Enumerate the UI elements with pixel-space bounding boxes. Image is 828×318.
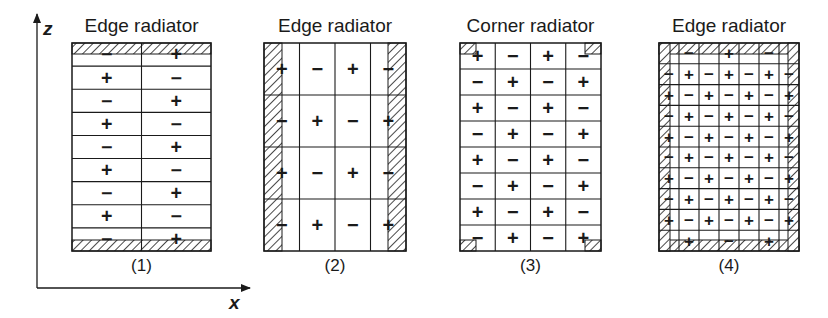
plus-sign: + — [101, 113, 112, 135]
panel-title: Edge radiator — [672, 15, 787, 36]
plus-sign: + — [171, 228, 182, 250]
plus-sign: + — [507, 227, 519, 249]
minus-sign: − — [664, 190, 674, 209]
plus-sign: + — [704, 169, 714, 188]
minus-sign: − — [382, 162, 394, 184]
plus-sign: + — [472, 201, 484, 223]
minus-sign: − — [542, 71, 554, 93]
minus-sign: − — [664, 65, 674, 84]
panel-title: Corner radiator — [467, 15, 595, 36]
plus-sign: + — [784, 169, 794, 188]
plus-sign: + — [276, 162, 288, 184]
plus-sign: + — [507, 175, 519, 197]
minus-sign: − — [744, 65, 754, 84]
panel-caption: (1) — [131, 256, 152, 275]
minus-sign: − — [704, 65, 714, 84]
plus-sign: + — [764, 107, 774, 126]
minus-sign: − — [472, 71, 484, 93]
minus-sign: − — [382, 58, 394, 80]
plus-sign: + — [578, 227, 590, 249]
plus-sign: + — [764, 148, 774, 167]
plus-sign: + — [101, 67, 112, 89]
plus-sign: + — [276, 58, 288, 80]
minus-sign: − — [704, 148, 714, 167]
minus-sign: − — [684, 211, 694, 230]
plus-sign: + — [664, 211, 674, 230]
minus-sign: − — [684, 86, 694, 105]
plus-sign: + — [764, 232, 774, 251]
plus-sign: + — [764, 65, 774, 84]
minus-sign: − — [171, 113, 182, 135]
minus-sign: − — [684, 128, 694, 147]
plus-sign: + — [578, 123, 590, 145]
panels: Edge radiator−++−−++−−++−−++−−+(1)Edge r… — [72, 15, 799, 275]
minus-sign: − — [171, 67, 182, 89]
plus-sign: + — [472, 97, 484, 119]
panel-1: Edge radiator−++−−++−−++−−++−−+(1) — [72, 15, 211, 275]
plus-sign: + — [724, 44, 734, 63]
minus-sign: − — [347, 214, 359, 236]
plus-sign: + — [578, 71, 590, 93]
panel-title: Edge radiator — [84, 15, 199, 36]
minus-sign: − — [171, 205, 182, 227]
plus-sign: + — [744, 211, 754, 230]
plus-sign: + — [704, 211, 714, 230]
minus-sign: − — [311, 162, 323, 184]
minus-sign: − — [311, 58, 323, 80]
minus-sign: − — [507, 201, 519, 223]
plus-sign: + — [664, 128, 674, 147]
panel-4: Edge radiator−+−−+−+−+−+−+−+−+−+−+−+−+−+… — [659, 15, 799, 275]
plus-sign: + — [684, 65, 694, 84]
plus-sign: + — [472, 45, 484, 67]
plus-sign: + — [382, 214, 394, 236]
minus-sign: − — [784, 107, 794, 126]
minus-sign: − — [101, 228, 112, 250]
plus-sign: + — [171, 182, 182, 204]
minus-sign: − — [578, 149, 590, 171]
plus-sign: + — [542, 149, 554, 171]
plus-sign: + — [704, 128, 714, 147]
minus-sign: − — [101, 182, 112, 204]
minus-sign: − — [724, 86, 734, 105]
minus-sign: − — [764, 86, 774, 105]
plus-sign: + — [578, 175, 590, 197]
minus-sign: − — [784, 190, 794, 209]
plus-sign: + — [764, 190, 774, 209]
minus-sign: − — [684, 169, 694, 188]
plus-sign: + — [101, 159, 112, 181]
panel-2: Edge radiator+−+−−+−++−+−−+−+(2) — [264, 15, 406, 275]
minus-sign: − — [347, 110, 359, 132]
plus-sign: + — [171, 90, 182, 112]
plus-sign: + — [101, 205, 112, 227]
plus-sign: + — [507, 71, 519, 93]
plus-sign: + — [704, 86, 714, 105]
panel-caption: (2) — [325, 256, 346, 275]
minus-sign: − — [472, 175, 484, 197]
plus-sign: + — [744, 169, 754, 188]
plus-sign: + — [664, 86, 674, 105]
plus-sign: + — [684, 232, 694, 251]
minus-sign: − — [784, 148, 794, 167]
plus-sign: + — [542, 97, 554, 119]
minus-sign: − — [764, 128, 774, 147]
minus-sign: − — [276, 110, 288, 132]
plus-sign: + — [784, 86, 794, 105]
plus-sign: + — [784, 128, 794, 147]
minus-sign: − — [101, 90, 112, 112]
plus-sign: + — [684, 190, 694, 209]
minus-sign: − — [101, 136, 112, 158]
minus-sign: − — [578, 201, 590, 223]
minus-sign: − — [744, 190, 754, 209]
minus-sign: − — [542, 175, 554, 197]
plus-sign: + — [347, 58, 359, 80]
plus-sign: + — [664, 169, 674, 188]
panel-caption: (3) — [520, 256, 541, 275]
minus-sign: − — [664, 107, 674, 126]
x-axis-label: x — [228, 292, 241, 313]
minus-sign: − — [507, 45, 519, 67]
z-axis-label: z — [42, 18, 53, 39]
minus-sign: − — [542, 123, 554, 145]
plus-sign: + — [684, 148, 694, 167]
minus-sign: − — [507, 149, 519, 171]
plus-sign: + — [724, 190, 734, 209]
